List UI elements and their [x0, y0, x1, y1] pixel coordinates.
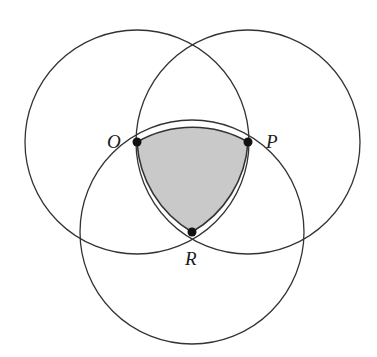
point-p — [244, 138, 253, 147]
diagram-canvas: O P R — [0, 0, 377, 357]
shaded-region — [137, 127, 248, 232]
point-r — [188, 228, 197, 237]
label-p: P — [265, 131, 278, 152]
label-o: O — [107, 131, 121, 152]
label-r: R — [184, 248, 197, 269]
point-o — [133, 138, 142, 147]
